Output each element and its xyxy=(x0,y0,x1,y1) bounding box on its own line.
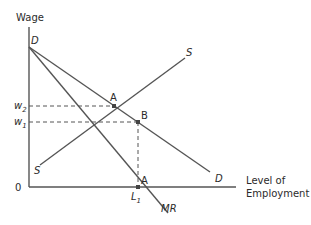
y-axis-label: Wage xyxy=(16,12,44,23)
point-a-upper xyxy=(112,104,116,108)
point-a-upper-label: A xyxy=(110,92,117,103)
mr-label: MR xyxy=(161,203,177,214)
point-a-lower xyxy=(136,185,140,189)
supply-curve xyxy=(40,58,185,165)
mr-curve xyxy=(29,47,168,213)
demand-label-start: D xyxy=(31,35,39,46)
l1-label: L1 xyxy=(131,191,141,205)
origin-label: 0 xyxy=(15,182,21,193)
labor-market-diagram: Wage Level of Employment 0 w2 w1 L1 D D … xyxy=(0,0,311,225)
x-axis-label-line1: Level of xyxy=(246,175,286,186)
supply-label-start: S xyxy=(34,165,41,176)
w1-label: w1 xyxy=(14,116,27,130)
demand-label-end: D xyxy=(215,173,223,184)
point-b xyxy=(136,120,140,124)
point-a-lower-label: A xyxy=(141,175,148,186)
supply-label-end: S xyxy=(186,47,193,58)
point-b-label: B xyxy=(141,110,148,121)
w2-label: w2 xyxy=(14,100,27,114)
x-axis-label-line2: Employment xyxy=(246,188,309,199)
